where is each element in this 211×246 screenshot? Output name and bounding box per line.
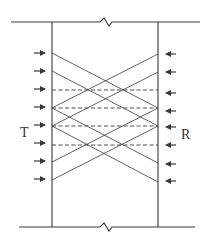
top-boundary-line (11, 18, 200, 26)
receiver-arrows (166, 54, 176, 181)
transmitter-label: T (20, 126, 29, 140)
walls (52, 22, 158, 227)
bottom-boundary-line (19, 223, 195, 231)
diagonal-rays (52, 53, 158, 182)
wave-ray-diagram (0, 0, 211, 246)
receiver-label: R (181, 128, 190, 142)
transmitter-arrows (34, 53, 45, 179)
